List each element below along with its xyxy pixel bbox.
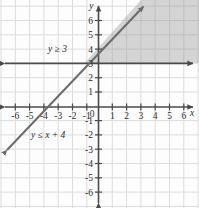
y-tick-label-4: 4 <box>88 45 93 55</box>
x-tick-label-1: 1 <box>110 111 115 121</box>
y-tick-label-5: 5 <box>88 30 93 40</box>
x-tick-label-neg-3: -3 <box>54 111 62 121</box>
y-tick-label-1: 1 <box>88 87 93 97</box>
y-tick-label-neg-3: -3 <box>85 145 93 155</box>
x-tick-label-neg-6: -6 <box>11 111 19 121</box>
x-tick-label-neg-4: -4 <box>40 111 48 121</box>
inequality-label-upper: y ≥ 3 <box>47 44 67 54</box>
x-tick-label-6: 6 <box>181 111 186 121</box>
graph-figure: y x 0 -6 -5 -4 -3 -2 -1 1 2 3 4 5 6 1 2 … <box>0 0 199 208</box>
y-tick-label-2: 2 <box>88 73 93 83</box>
y-tick-label-3: 3 <box>88 59 93 69</box>
y-axis-name: y <box>88 1 94 11</box>
x-tick-label-3: 3 <box>139 111 144 121</box>
x-tick-label-neg-2: -2 <box>69 111 77 121</box>
y-tick-label-neg-5: -5 <box>85 173 93 183</box>
x-tick-label-2: 2 <box>124 111 129 121</box>
y-tick-label-neg-1: -1 <box>85 116 93 126</box>
x-axis-name: x <box>189 108 195 118</box>
coordinate-plane-svg: y x 0 -6 -5 -4 -3 -2 -1 1 2 3 4 5 6 1 2 … <box>0 0 199 208</box>
y-tick-label-6: 6 <box>88 16 93 26</box>
x-tick-label-neg-5: -5 <box>26 111 34 121</box>
y-tick-label-neg-2: -2 <box>85 130 93 140</box>
y-tick-label-neg-4: -4 <box>85 159 93 169</box>
x-tick-label-5: 5 <box>167 111 172 121</box>
y-tick-label-neg-6: -6 <box>85 188 93 198</box>
x-tick-label-4: 4 <box>153 111 158 121</box>
inequality-label-lower: y ≤ x + 4 <box>30 130 66 140</box>
